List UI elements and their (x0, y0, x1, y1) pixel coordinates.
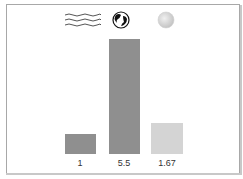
bar-earth (109, 39, 140, 154)
moon-icon (157, 11, 175, 29)
value-label-moon: 1.67 (147, 158, 187, 168)
frame-shadow-bottom (6, 173, 242, 175)
value-label-earth: 5.5 (104, 158, 144, 168)
frame-shadow-right (240, 5, 242, 175)
water-waves-icon (64, 12, 102, 28)
value-label-water: 1 (60, 158, 100, 168)
bar-water (65, 134, 96, 154)
earth-globe-icon (112, 11, 130, 29)
bar-moon (151, 123, 183, 154)
